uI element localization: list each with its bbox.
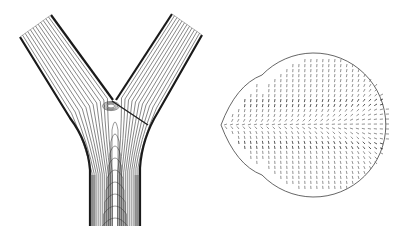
cross-section-outline — [221, 53, 386, 197]
left-outer-wall — [20, 37, 90, 226]
cross-section-vector-panel — [221, 53, 389, 197]
left-inner-wall — [51, 15, 113, 100]
figure — [0, 0, 415, 234]
bifurcation-streamlines-panel — [20, 14, 202, 226]
